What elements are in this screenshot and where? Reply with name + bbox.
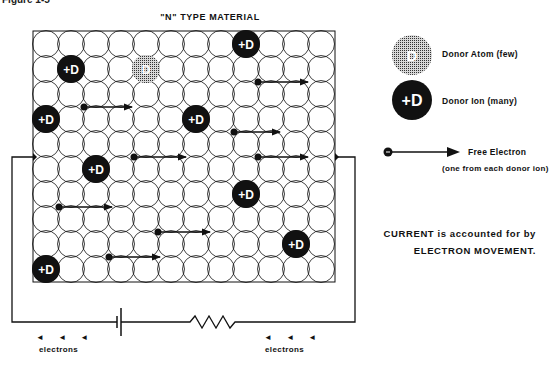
lattice-atom: [233, 56, 260, 83]
lattice-atom: [33, 131, 60, 158]
lattice-atom: [183, 231, 210, 258]
lattice-atom: [83, 256, 110, 283]
lattice-atom: [183, 31, 210, 58]
donor-ion-label: +D: [38, 113, 54, 127]
lattice-atom: [283, 31, 310, 58]
lattice-atom: [208, 181, 235, 208]
lattice-atom: [308, 181, 335, 208]
legend-donor-ion-icon: +D: [392, 80, 432, 120]
free-electron-icon: [155, 229, 162, 236]
free-electron-icon: [231, 129, 238, 136]
lattice-atom: [308, 231, 335, 258]
donor-atom-label: D: [142, 63, 151, 77]
svg-text:D: D: [407, 47, 418, 64]
lattice-atom: [258, 131, 285, 158]
legend-free-electron-sublabel: (one from each donor ion): [442, 164, 549, 173]
lattice-atom: [208, 206, 235, 233]
lattice-atom: [158, 131, 185, 158]
lattice-atom: [158, 31, 185, 58]
lattice-atom: [83, 131, 110, 158]
lattice-atom: [158, 81, 185, 108]
lattice-atom: [108, 181, 135, 208]
lattice-atom: [258, 81, 285, 108]
legend-donor-atom-label: Donor Atom (few): [442, 49, 518, 59]
lattice-atom: [208, 256, 235, 283]
lattice-atom: [108, 56, 135, 83]
right-electrons-label: electrons: [265, 345, 304, 354]
free-electron-icon: [255, 79, 262, 86]
lattice-atom: [233, 156, 260, 183]
lattice-atom: [258, 31, 285, 58]
lattice-atom: [283, 131, 310, 158]
free-electron-icon: [81, 104, 88, 111]
lattice-atom: [183, 181, 210, 208]
lattice-atom: [108, 31, 135, 58]
lattice-atom: [158, 206, 185, 233]
lattice-atom: [133, 131, 160, 158]
lattice-atom: [58, 256, 85, 283]
lattice-atom: [258, 156, 285, 183]
arrowhead-icon: [152, 254, 161, 261]
lattice-atom: [158, 156, 185, 183]
lattice-atom: [133, 206, 160, 233]
legend-free-electron-icon: [384, 147, 461, 157]
lattice-atom: [58, 206, 85, 233]
free-electron-icon: [56, 204, 63, 211]
lattice-atom: [258, 56, 285, 83]
lattice-atom: [33, 231, 60, 258]
lattice-atom: [233, 231, 260, 258]
lattice-atom: [183, 156, 210, 183]
lattice-atom: [33, 81, 60, 108]
right-terminal-icon: [335, 153, 339, 161]
lattice-atom: [158, 56, 185, 83]
lattice-atom: [308, 256, 335, 283]
legend-free-electron-label: Free Electron: [468, 147, 526, 157]
lattice-atom: [183, 256, 210, 283]
lattice-atom: [208, 81, 235, 108]
lattice-atom: [33, 206, 60, 233]
lattice-atom: [108, 81, 135, 108]
donor-ion-label: +D: [38, 263, 54, 277]
lattice-atom: [233, 81, 260, 108]
lattice-atom: [33, 181, 60, 208]
lattice-atom: [258, 231, 285, 258]
lattice-atom: [283, 56, 310, 83]
lattice-atom: [258, 106, 285, 133]
lattice-atom: [183, 206, 210, 233]
arrowhead-icon: [202, 229, 211, 236]
donor-ion-label: +D: [288, 238, 304, 252]
lattice-atom: [283, 156, 310, 183]
lattice-atom: [308, 31, 335, 58]
lattice-atom: [233, 106, 260, 133]
legend-donor-ion-label: Donor Ion (many): [442, 96, 517, 106]
lattice-atom: [33, 56, 60, 83]
lattice-atom: [258, 206, 285, 233]
lattice-atom: [208, 156, 235, 183]
free-electron-icon: [106, 254, 113, 261]
lattice-atom: [158, 181, 185, 208]
lattice-atom: [158, 256, 185, 283]
lattice-atom: [283, 181, 310, 208]
lattice-atom: [33, 156, 60, 183]
lattice-atom: [58, 31, 85, 58]
lattice-atom: [133, 181, 160, 208]
lattice-atom: [308, 156, 335, 183]
lattice-atom: [83, 81, 110, 108]
lattice-atom: [233, 256, 260, 283]
lattice-atom: [258, 181, 285, 208]
donor-ion-label: +D: [63, 63, 79, 77]
donor-ion-label: +D: [238, 188, 254, 202]
lattice-atom: [108, 206, 135, 233]
lattice-atom: [308, 206, 335, 233]
lattice-atom: [158, 231, 185, 258]
lattice-atom: [108, 231, 135, 258]
lattice-atom: [58, 106, 85, 133]
lattice-atom: [233, 206, 260, 233]
lattice-atom: [83, 56, 110, 83]
lattice-atom: [283, 206, 310, 233]
lattice-atom: [58, 181, 85, 208]
lattice-atom: [133, 31, 160, 58]
lattice-atom: [308, 81, 335, 108]
donor-ion-label: +D: [188, 113, 204, 127]
lattice-atom: [108, 156, 135, 183]
